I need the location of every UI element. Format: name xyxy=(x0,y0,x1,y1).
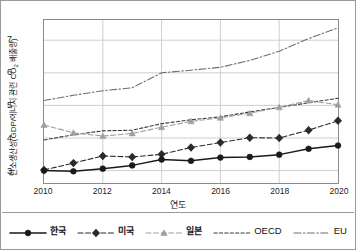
data-point-일본 xyxy=(306,97,312,103)
data-point-한국 xyxy=(100,166,106,172)
x-axis-tick-label: 2010 xyxy=(23,187,63,196)
data-point-미국 xyxy=(247,134,253,141)
data-point-한국 xyxy=(276,152,282,158)
data-point-미국 xyxy=(70,160,76,167)
chart-legend: 한국미국일본OECDEU xyxy=(2,212,354,248)
x-axis-tick-label: 2020 xyxy=(319,187,356,196)
legend-label: 미국 xyxy=(118,224,134,237)
y-axis-title-main: 탄소생산성(GDP/에너지 관련 CO xyxy=(9,68,18,177)
data-point-미국 xyxy=(276,135,282,142)
legend-item-한국[interactable]: 한국 xyxy=(9,224,66,237)
data-point-한국 xyxy=(247,154,253,160)
series-line-EU xyxy=(44,28,338,101)
legend-label: OECD xyxy=(254,225,281,236)
legend-item-OECD[interactable]: OECD xyxy=(213,225,281,237)
data-point-미국 xyxy=(305,127,311,134)
data-point-미국 xyxy=(100,153,106,160)
data-point-한국 xyxy=(218,155,224,161)
legend-item-미국[interactable]: 미국 xyxy=(77,224,134,237)
data-point-한국 xyxy=(41,168,47,174)
chart-figure: 34567 201020122014201620182020 연도 탄소생산성(… xyxy=(0,0,356,250)
data-series-layer xyxy=(44,20,338,183)
plot-area xyxy=(43,19,339,184)
legend-item-EU[interactable]: EU xyxy=(293,225,347,237)
x-axis-title: 연도 xyxy=(1,198,355,211)
legend-label: EU xyxy=(334,225,347,236)
x-axis-tick-label: 2018 xyxy=(260,187,300,196)
y-axis-title-tail: 배출량) xyxy=(9,38,18,64)
x-axis-tick-label: 2016 xyxy=(201,187,241,196)
data-point-일본 xyxy=(41,122,47,128)
data-point-일본 xyxy=(70,130,76,136)
data-point-한국 xyxy=(129,163,135,169)
data-point-미국 xyxy=(217,139,223,146)
legend-label: 한국 xyxy=(50,224,66,237)
legend-swatch-EU xyxy=(293,225,331,237)
legend-item-일본[interactable]: 일본 xyxy=(145,224,202,237)
y-axis-title: 탄소생산성(GDP/에너지 관련 CO2 배출량) xyxy=(7,27,20,187)
x-axis-tick-label: 2012 xyxy=(82,187,122,196)
legend-swatch-일본 xyxy=(145,225,183,237)
data-point-미국 xyxy=(129,154,135,161)
data-point-한국 xyxy=(335,143,341,149)
data-point-한국 xyxy=(71,168,77,174)
legend-label: 일본 xyxy=(186,224,202,237)
y-axis-title-subscript: 2 xyxy=(13,64,19,67)
data-point-한국 xyxy=(159,157,165,163)
data-point-한국 xyxy=(306,146,312,152)
legend-swatch-한국 xyxy=(9,225,47,237)
legend-swatch-OECD xyxy=(213,225,251,237)
data-point-한국 xyxy=(188,158,194,164)
data-point-미국 xyxy=(188,144,194,151)
legend-swatch-미국 xyxy=(77,225,115,237)
data-point-미국 xyxy=(335,117,341,124)
x-axis-tick-label: 2014 xyxy=(141,187,181,196)
